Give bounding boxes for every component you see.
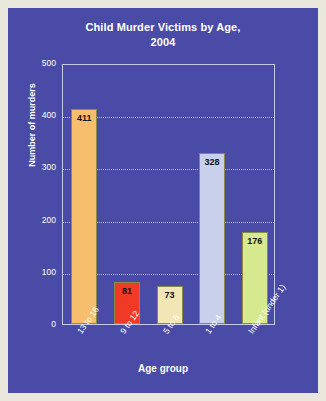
y-tick-label: 400 xyxy=(16,111,56,120)
bar-value-label: 328 xyxy=(200,157,224,167)
bar-slot: 328 xyxy=(199,65,225,324)
y-tick-label: 100 xyxy=(16,268,56,277)
bar[interactable]: 411 xyxy=(71,109,97,324)
chart-title: Child Murder Victims by Age, 2004 xyxy=(8,20,318,50)
y-tick-label: 300 xyxy=(16,163,56,172)
y-tick-label: 500 xyxy=(16,59,56,68)
bar-slot: 81 xyxy=(114,65,140,324)
y-tick-label: 200 xyxy=(16,216,56,225)
bar[interactable]: 328 xyxy=(199,153,225,324)
y-tick-label: 0 xyxy=(16,320,56,329)
bar-slot: 176 xyxy=(242,65,268,324)
plot-area: 4118173328176 xyxy=(62,64,275,325)
bar-slot: 411 xyxy=(71,65,97,324)
chart-title-line1: Child Murder Victims by Age, xyxy=(86,21,241,33)
chart-title-line2: 2004 xyxy=(8,35,318,50)
bar-value-label: 176 xyxy=(243,236,267,246)
bar-value-label: 411 xyxy=(72,113,96,123)
chart-page: Child Murder Victims by Age, 2004 Number… xyxy=(0,0,326,401)
bar-value-label: 73 xyxy=(158,290,182,300)
bar-slot: 73 xyxy=(157,65,183,324)
y-axis-label: Number of murders xyxy=(27,55,37,195)
bar-series: 4118173328176 xyxy=(63,65,274,324)
chart-panel: Child Murder Victims by Age, 2004 Number… xyxy=(8,8,318,393)
x-axis-label: Age group xyxy=(8,363,318,374)
bar-value-label: 81 xyxy=(115,286,139,296)
